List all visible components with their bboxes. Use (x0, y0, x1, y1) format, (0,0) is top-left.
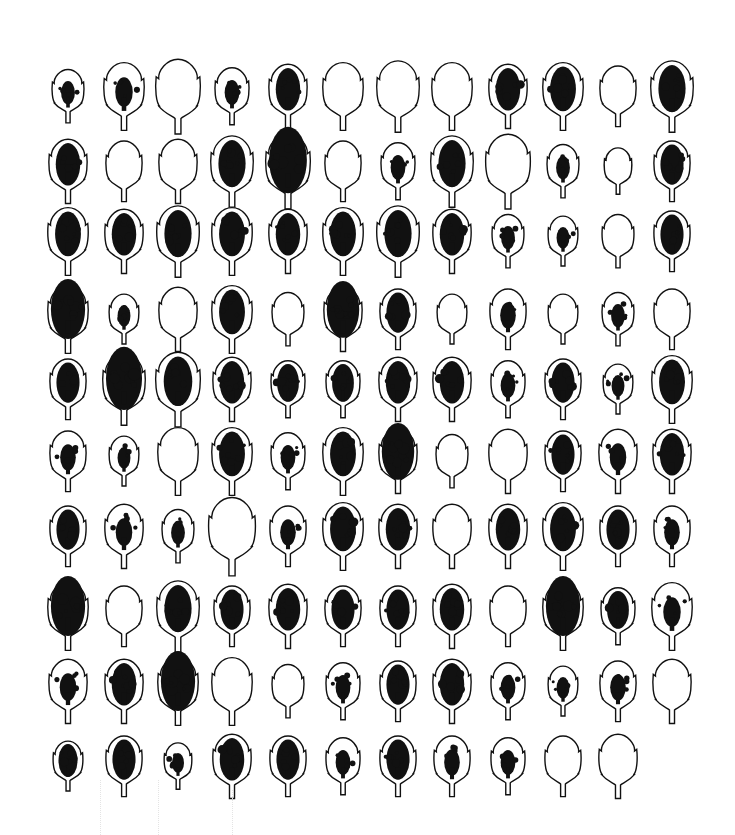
leaf-specimen (214, 586, 250, 647)
pigment-blotch (330, 432, 356, 477)
leaf-specimen (269, 64, 307, 128)
pigment-blotch (112, 213, 136, 255)
leaf-specimen (491, 663, 525, 720)
leaf-specimen (490, 289, 526, 350)
leaf-specimen (157, 206, 200, 277)
pigment-blotch (164, 357, 193, 406)
leaf-outline (212, 658, 252, 726)
leaf-outline (159, 287, 197, 351)
leaf-specimen (266, 127, 311, 209)
pigment-blotch (161, 651, 195, 711)
leaf-specimen (323, 63, 363, 131)
leaf-specimen (213, 357, 251, 421)
pigment-blotch (51, 279, 85, 339)
leaf-specimen (380, 289, 416, 350)
leaf-specimen (377, 61, 420, 132)
scan-artifact-line (232, 790, 233, 835)
leaf-specimen (50, 506, 86, 567)
leaf-specimen (270, 736, 306, 797)
leaf-specimen (436, 434, 468, 487)
scan-artifact-line (158, 780, 159, 835)
leaf-specimen (326, 738, 360, 795)
pigment-blotch (164, 210, 191, 257)
leaf-outline (106, 586, 142, 647)
leaf-specimen (548, 666, 578, 716)
leaf-specimen (652, 583, 692, 651)
leaf-specimen (543, 503, 583, 571)
leaf-specimen (272, 292, 304, 345)
pigment-blotch (382, 423, 414, 480)
leaf-specimen (381, 143, 415, 200)
leaf-specimen (212, 208, 252, 276)
leaf-specimen (269, 584, 307, 648)
leaf-outline (436, 434, 468, 487)
leaf-specimen (652, 356, 692, 424)
leaf-outline (272, 664, 304, 717)
leaf-specimen (52, 69, 84, 122)
leaf-outline (599, 734, 637, 798)
leaf-specimen (602, 214, 634, 267)
pigment-blotch (55, 212, 81, 257)
pigment-blotch (659, 360, 685, 405)
leaf-specimen (105, 504, 143, 568)
leaf-specimen (379, 504, 417, 568)
pigment-blotch (606, 510, 629, 550)
leaf-specimen (654, 289, 690, 350)
leaf-specimen (159, 139, 197, 203)
leaf-specimen (431, 136, 474, 207)
leaf-specimen (269, 209, 307, 273)
leaf-specimen (326, 663, 360, 720)
leaf-specimen (432, 63, 472, 131)
pigment-blotch (440, 588, 464, 630)
pigment-blotch (51, 576, 85, 636)
leaf-specimen (433, 357, 471, 421)
leaf-outline (653, 659, 691, 723)
leaf-specimen (543, 63, 583, 131)
leaf-outline (106, 141, 142, 202)
leaf-specimen (433, 209, 471, 273)
leaf-specimen (486, 134, 531, 209)
leaf-specimen (326, 361, 360, 418)
leaf-specimen (490, 586, 526, 647)
leaf-specimen (48, 576, 88, 650)
pigment-blotch (56, 510, 79, 550)
leaf-specimen (323, 208, 363, 276)
leaf-specimen (653, 429, 691, 493)
leaf-specimen (271, 433, 305, 490)
leaf-specimen (603, 364, 633, 414)
leaf-specimen (158, 428, 198, 496)
leaf-specimen (53, 741, 83, 791)
pigment-blotch (276, 740, 299, 780)
leaf-specimen (106, 141, 142, 202)
leaf-specimen (272, 664, 304, 717)
leaf-specimen (213, 734, 251, 798)
leaf-specimen (654, 506, 690, 567)
leaf-specimen (48, 208, 88, 276)
leaf-specimen (380, 736, 416, 797)
leaf-specimen (434, 736, 470, 797)
leaf-outline (325, 141, 361, 202)
leaf-specimen (106, 586, 142, 647)
leaf-outline (548, 294, 578, 344)
leaf-specimen (323, 503, 363, 571)
leaf-specimen (547, 144, 579, 197)
leaf-outline (432, 63, 472, 131)
leaf-outline (437, 294, 467, 344)
pigment-blotch (58, 744, 77, 777)
leaf-specimen (379, 357, 417, 421)
leaf-specimen (50, 359, 86, 420)
pigment-blotch (658, 65, 685, 112)
leaf-outline (156, 59, 201, 134)
leaf-specimen (433, 659, 471, 723)
leaf-specimen (599, 429, 637, 493)
leaf-outline (433, 504, 471, 568)
leaf-specimen (49, 139, 87, 203)
pigment-blotch (164, 585, 191, 632)
leaf-specimen (157, 581, 200, 652)
leaf-specimen (379, 423, 417, 494)
leaf-outline (486, 134, 531, 209)
pigment-blotch (496, 508, 520, 550)
leaf-specimen (600, 66, 636, 127)
leaf-specimen (600, 661, 636, 722)
leaf-specimen (548, 216, 578, 266)
